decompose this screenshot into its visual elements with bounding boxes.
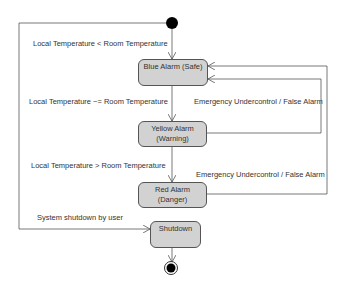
- state-label: Yellow Alarm: [139, 124, 206, 134]
- state-red-alarm[interactable]: Red Alarm (Danger): [138, 182, 207, 208]
- transition-label-yellow-red: Local Temperature > Room Temperature: [31, 161, 166, 170]
- state-blue-alarm[interactable]: Blue Alarm (Safe): [138, 59, 208, 86]
- state-sublabel: (Danger): [139, 195, 206, 205]
- transition-label-shutdown: System shutdown by user: [37, 213, 123, 222]
- transition-label-blue-yellow: Local Temperature ~= Room Temperature: [29, 97, 168, 106]
- state-label: Red Alarm: [139, 185, 206, 195]
- state-label: Shutdown: [151, 224, 200, 234]
- transition-label-start-blue: Local Temperature < Room Temperature: [33, 39, 168, 48]
- state-sublabel: (Warning): [139, 134, 206, 144]
- initial-node-icon: [165, 16, 179, 30]
- final-node-icon: [163, 260, 179, 276]
- state-yellow-alarm[interactable]: Yellow Alarm (Warning): [138, 121, 207, 147]
- state-label: Blue Alarm (Safe): [139, 62, 207, 72]
- state-shutdown[interactable]: Shutdown: [150, 221, 201, 248]
- transition-label-red-blue: Emergency Undercontrol / False Alarm: [196, 170, 325, 179]
- transition-label-yellow-blue: Emergency Undercontrol / False Alarm: [194, 97, 323, 106]
